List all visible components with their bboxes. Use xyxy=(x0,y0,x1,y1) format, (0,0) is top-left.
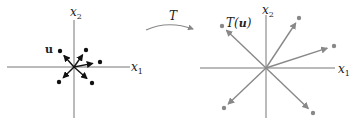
vector-endpoint-dot xyxy=(220,24,224,28)
right-x1-label: x1 xyxy=(338,62,350,78)
left-x1-label: x1 xyxy=(131,60,143,76)
left-plane: x2 x1 u xyxy=(7,5,143,118)
transform-label: T xyxy=(169,9,178,23)
vector-endpoint-dot xyxy=(311,111,315,115)
vector-endpoint-dot xyxy=(222,106,226,110)
left-x2-label: x2 xyxy=(70,5,82,21)
vector-endpoint-dot xyxy=(58,49,62,53)
vector-endpoint-dot xyxy=(90,81,94,85)
vector-arrow xyxy=(74,67,87,79)
vector-arrow xyxy=(266,48,327,68)
transformation-T: T xyxy=(146,9,193,30)
vector-arrow xyxy=(266,68,308,109)
right-plane: x2 x1 T(u) xyxy=(200,3,350,118)
vector-arrow xyxy=(63,67,74,78)
vector-endpoint-dot xyxy=(98,60,102,64)
vector-arrow xyxy=(266,23,296,68)
vector-Tu-label: T(u) xyxy=(226,16,252,30)
vector-arrow xyxy=(64,55,74,67)
vector-endpoint-dot xyxy=(297,16,301,20)
linear-transformation-diagram: x2 x1 u T x2 x1 T(u) xyxy=(0,0,357,125)
vector-arrow xyxy=(226,30,266,68)
vector-endpoint-dot xyxy=(57,80,61,84)
vector-endpoint-dot xyxy=(84,48,88,52)
vector-u-label: u xyxy=(45,43,53,56)
right-x2-label: x2 xyxy=(262,3,274,19)
curved-arrow-icon xyxy=(146,25,193,30)
vector-arrow xyxy=(228,68,266,104)
right-vectors xyxy=(220,16,336,115)
vector-endpoint-dot xyxy=(332,44,336,48)
